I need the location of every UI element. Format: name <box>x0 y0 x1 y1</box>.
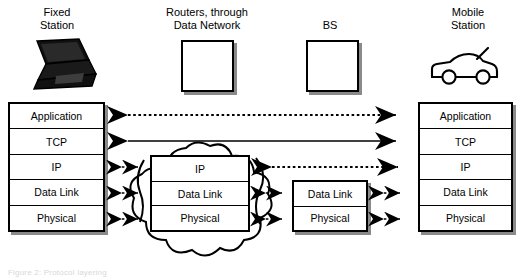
base-station-caption: BS <box>292 19 368 32</box>
fixed-station-caption: Fixed Station <box>12 6 102 32</box>
layer-router-datalink: Data Link <box>152 182 248 207</box>
layer-fixed-tcp: TCP <box>10 129 103 154</box>
car-icon <box>428 47 500 89</box>
layer-mobile-tcp: TCP <box>420 129 511 154</box>
stack-mobile-station: Application TCP IP Data Link Physical <box>418 102 513 232</box>
routers-box-icon <box>181 40 234 92</box>
layer-router-ip: IP <box>152 157 248 182</box>
routers-caption: Routers, through Data Network <box>152 6 262 32</box>
layer-fixed-ip: IP <box>10 155 103 180</box>
base-station-box-icon <box>306 40 359 92</box>
layer-fixed-datalink: Data Link <box>10 180 103 205</box>
stack-router: IP Data Link Physical <box>150 155 250 232</box>
layer-mobile-ip: IP <box>420 155 511 180</box>
layer-router-physical: Physical <box>152 206 248 230</box>
layer-fixed-physical: Physical <box>10 206 103 230</box>
stack-base-station: Data Link Physical <box>292 180 368 232</box>
mobile-station-caption: Mobile Station <box>423 6 513 32</box>
layer-fixed-application: Application <box>10 104 103 129</box>
layer-bs-datalink: Data Link <box>294 182 366 207</box>
laptop-icon <box>22 38 100 92</box>
figure-footer-caption: Figure 2: Protocol layering <box>8 268 107 277</box>
layer-bs-physical: Physical <box>294 207 366 231</box>
layer-mobile-application: Application <box>420 104 511 129</box>
layer-mobile-physical: Physical <box>420 206 511 230</box>
stack-fixed-station: Application TCP IP Data Link Physical <box>8 102 105 232</box>
layer-mobile-datalink: Data Link <box>420 180 511 205</box>
